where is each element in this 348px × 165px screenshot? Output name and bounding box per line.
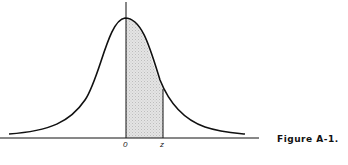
- figure-caption: Figure A-1.: [277, 134, 339, 144]
- origin-label: 0: [123, 140, 127, 149]
- z-label: z: [160, 140, 164, 149]
